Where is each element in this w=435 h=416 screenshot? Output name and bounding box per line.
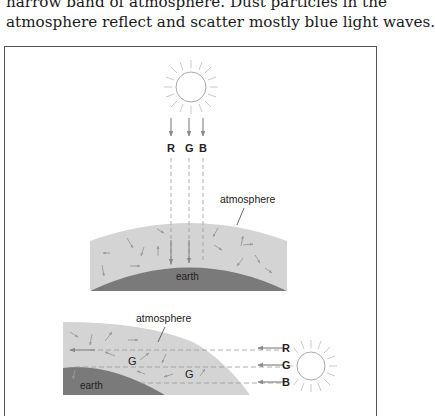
label-g-bottom: G bbox=[282, 359, 291, 371]
sun-icon-top bbox=[164, 60, 218, 114]
label-r-top: R bbox=[167, 142, 175, 154]
label-r-bottom: R bbox=[282, 342, 290, 354]
atmosphere-leader-top bbox=[237, 208, 244, 225]
sun-icon-bottom bbox=[289, 340, 337, 392]
earth-label-top: earth bbox=[176, 271, 199, 282]
earth-label-bottom: earth bbox=[80, 380, 103, 391]
label-b-top: B bbox=[199, 142, 207, 154]
scatter-label-g-1: G bbox=[128, 355, 137, 367]
atmosphere-label-top: atmosphere bbox=[220, 193, 276, 205]
label-g-top: G bbox=[185, 142, 194, 154]
label-b-bottom: B bbox=[282, 376, 290, 388]
scatter-label-g-2: G bbox=[185, 368, 194, 380]
atmosphere-label-bottom: atmosphere bbox=[136, 312, 192, 324]
